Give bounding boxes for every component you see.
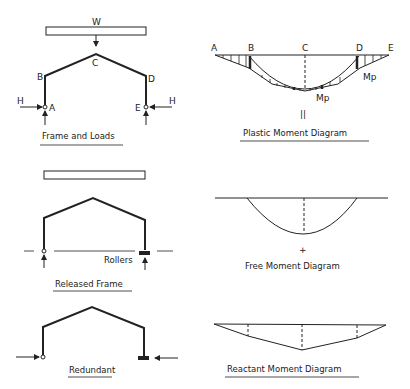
roller-support <box>138 356 149 360</box>
caption-free-moment-diagram: Free Moment Diagram <box>245 261 340 271</box>
free-moment-diagram-panel: + Free Moment Diagram <box>215 198 388 271</box>
figure-canvas: W C B D A E H H Frame and Loads A B C D … <box>0 0 410 389</box>
distributed-load-bar <box>46 27 146 35</box>
force-label-h-right: H <box>169 96 176 106</box>
plastic-moment-label-center: Mp <box>316 93 330 103</box>
plus-sign: + <box>299 245 307 255</box>
pin-support-a <box>43 105 47 109</box>
caption-redundant: Redundant <box>69 365 116 375</box>
parabola <box>247 198 357 234</box>
load-label: W <box>92 17 101 27</box>
free-moment-curve <box>249 56 359 89</box>
released-frame-panel: Rollers Released Frame <box>24 171 173 291</box>
joint-label-d: D <box>148 74 155 84</box>
plastic-moment-diagram-panel: A B C D E <box>211 43 394 141</box>
distributed-load-bar <box>44 171 145 179</box>
point-label-c: C <box>302 43 308 53</box>
point-label-e: E <box>388 43 394 53</box>
frame-and-loads-panel: W C B D A E H H Frame and Loads <box>17 17 176 145</box>
point-label-d: D <box>356 43 363 53</box>
joint-label-c: C <box>92 58 98 68</box>
portal-frame <box>44 198 145 250</box>
point-label-b: B <box>248 43 254 53</box>
pin-support <box>42 249 46 253</box>
joint-label-e: E <box>135 103 141 113</box>
pin-support-e <box>144 105 148 109</box>
rollers-label: Rollers <box>104 255 133 265</box>
redundant-panel: Redundant <box>16 307 178 377</box>
reactant-moment-diagram-panel: Reactant Moment Diagram <box>214 324 386 377</box>
force-label-h-left: H <box>17 96 24 106</box>
caption-reactant-moment-diagram: Reactant Moment Diagram <box>227 364 342 374</box>
joint-label-a: A <box>49 103 56 113</box>
plastic-moment-label-right: Mp <box>363 72 377 82</box>
roller-support <box>139 251 150 255</box>
equals-sign: || <box>300 109 306 119</box>
joint-label-b: B <box>37 72 43 82</box>
caption-plastic-moment-diagram: Plastic Moment Diagram <box>243 128 347 138</box>
point-label-a: A <box>211 43 218 53</box>
pin-support <box>41 355 45 359</box>
hatching <box>223 55 381 91</box>
caption-released-frame: Released Frame <box>55 279 123 289</box>
reactant-polyline <box>214 324 386 350</box>
caption-frame-and-loads: Frame and Loads <box>42 131 115 141</box>
baseline <box>214 324 386 325</box>
portal-frame <box>43 307 144 356</box>
reactant-line-left <box>215 55 305 91</box>
